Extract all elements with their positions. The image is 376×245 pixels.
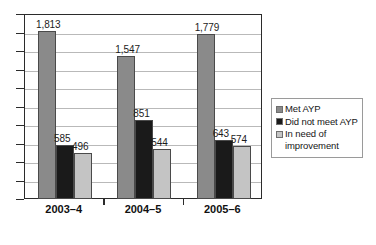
y-axis-tick [16, 14, 24, 15]
bar-value-label: 1,779 [195, 22, 220, 33]
legend-item: In need of improvement [276, 128, 358, 151]
legend-swatch-icon [276, 118, 283, 125]
legend-label: In need of improvement [285, 128, 358, 151]
bar-value-label: 544 [151, 137, 167, 148]
bar [153, 149, 171, 199]
y-axis-tick [16, 88, 24, 89]
y-axis-tick [16, 33, 24, 34]
y-axis-ticks [16, 14, 24, 199]
y-axis-tick [16, 162, 24, 163]
y-axis-tick [16, 107, 24, 108]
bar [197, 34, 215, 199]
bar-value-label: 496 [72, 141, 88, 152]
legend-item: Met AYP [276, 103, 358, 115]
bar-value-label: 1,547 [115, 44, 140, 55]
bar [117, 56, 135, 199]
x-axis-tick [183, 199, 184, 205]
bars-layer: 1,8135854961,5478515441,779643574 [24, 14, 262, 199]
y-axis-tick [16, 51, 24, 52]
chart-screenshot: 1,8135854961,5478515441,779643574 2003–4… [0, 0, 376, 245]
y-axis-tick [16, 70, 24, 71]
bar-value-label: 574 [231, 134, 247, 145]
x-axis-tick [103, 199, 104, 205]
legend-item: Did not meet AYP [276, 116, 358, 128]
x-axis-label: 2003–4 [24, 203, 103, 215]
y-axis-tick [16, 199, 24, 200]
bar [215, 140, 233, 199]
bar [135, 120, 153, 199]
legend-swatch-icon [276, 131, 283, 138]
chart-legend: Met AYPDid not meet AYPIn need of improv… [271, 98, 363, 158]
y-axis-tick [16, 144, 24, 145]
bar-value-label: 851 [133, 108, 149, 119]
legend-label: Met AYP [285, 103, 321, 115]
legend-label: Did not meet AYP [285, 116, 358, 128]
bar [38, 31, 56, 199]
bar [233, 146, 251, 199]
x-axis-label: 2005–6 [183, 203, 262, 215]
x-axis-label: 2004–5 [103, 203, 182, 215]
bar-value-label: 585 [54, 133, 70, 144]
legend-swatch-icon [276, 106, 283, 113]
y-axis-tick [16, 125, 24, 126]
bar-value-label: 1,813 [36, 19, 61, 30]
bar [74, 153, 92, 199]
bar [56, 145, 74, 199]
x-axis-labels: 2003–42004–52005–6 [24, 203, 262, 223]
bar-value-label: 643 [213, 128, 229, 139]
y-axis-tick [16, 181, 24, 182]
